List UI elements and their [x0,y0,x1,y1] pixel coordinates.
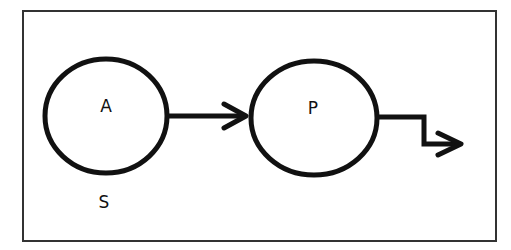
diagram-canvas [0,0,511,250]
zigzag-output-arrow-icon [379,117,461,155]
node-p-circle [251,61,377,175]
node-p-label: P [308,98,318,118]
node-a-circle [45,59,167,173]
node-a-label: A [100,96,112,116]
node-a-sublabel: S [99,192,110,212]
arrow-a-to-p-icon [168,104,246,128]
